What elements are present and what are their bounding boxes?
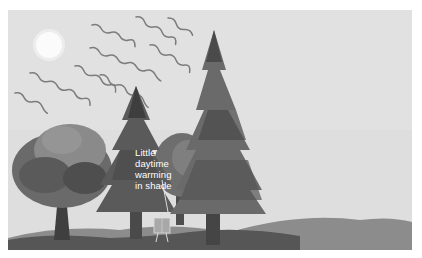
callout-label: Little daytime warming in shade — [135, 147, 172, 191]
illustration — [0, 0, 422, 258]
callout-line-3: warming — [135, 169, 172, 180]
callout-line-1: Little — [135, 147, 172, 158]
callout-line-4: in shade — [135, 180, 172, 191]
callout-line-2: daytime — [135, 158, 172, 169]
sun-icon — [33, 29, 65, 61]
